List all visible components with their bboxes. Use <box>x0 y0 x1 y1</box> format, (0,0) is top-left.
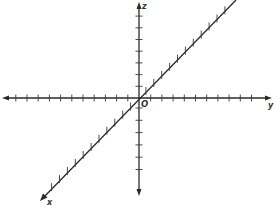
y-axis-label: y <box>268 101 274 110</box>
y-axis-right-arrow-icon <box>265 96 272 101</box>
x-axis-label: x <box>46 198 53 207</box>
3d-axes-diagram: z y x O <box>0 0 274 210</box>
origin-label: O <box>141 99 148 109</box>
y-axis <box>2 95 272 102</box>
z-axis-down-arrow-icon <box>137 189 142 196</box>
z-axis-label: z <box>141 2 147 11</box>
z-axis-up-arrow-icon <box>137 2 142 9</box>
y-axis-left-arrow-icon <box>2 96 9 101</box>
